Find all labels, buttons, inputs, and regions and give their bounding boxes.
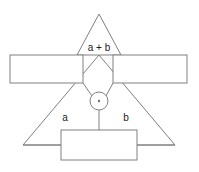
right-term-label: b xyxy=(123,112,129,123)
operator-dot-icon xyxy=(98,100,100,102)
connector-left-rect-to-node xyxy=(83,83,92,96)
left-term-label: a xyxy=(62,112,68,123)
connector-right-rect-to-node xyxy=(106,83,113,96)
left-rectangle xyxy=(10,55,83,83)
diagram-figure: a + b a b xyxy=(0,0,199,172)
bottom-rectangle xyxy=(61,130,137,160)
right-rectangle xyxy=(113,55,187,83)
sum-label: a + b xyxy=(88,42,111,53)
diagram-canvas: a + b a b xyxy=(0,0,199,172)
